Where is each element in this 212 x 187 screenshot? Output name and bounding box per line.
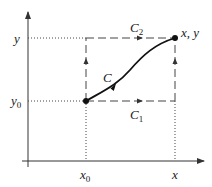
arrow-c1-up-icon: [173, 58, 178, 64]
start-point: [83, 98, 89, 104]
y0-tick-label: y0: [9, 93, 22, 110]
curve-c-label: C: [103, 70, 112, 85]
x0-tick-label: x0: [79, 167, 91, 184]
path-c1-label: C1: [130, 107, 143, 124]
end-point: [172, 35, 178, 41]
path-c2-label: C2: [130, 20, 143, 37]
arrow-c2-up-icon: [84, 58, 89, 64]
curve-c: [86, 38, 175, 101]
guide-lines: [28, 38, 175, 161]
arrow-c1-right-icon: [137, 99, 143, 104]
endpoint-label: x, y: [180, 25, 199, 40]
x-tick-label: x: [171, 167, 178, 182]
path-diagram: y y0 x0 x x, y C C2 C1: [0, 0, 212, 187]
y-tick-label: y: [12, 31, 20, 46]
